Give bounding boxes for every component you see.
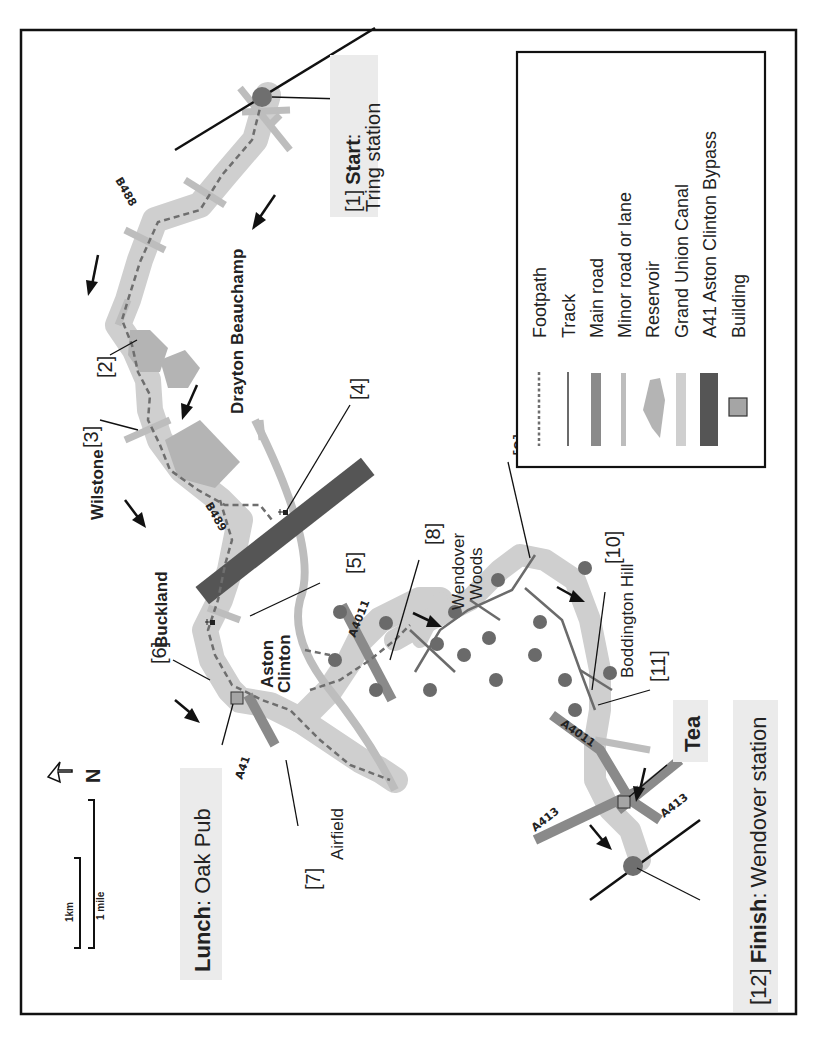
station-wendover	[623, 856, 643, 876]
legend-building-symbol	[729, 398, 747, 416]
start-label: [1]Start:	[342, 134, 364, 212]
scale-label-mile: 1 mile	[95, 891, 106, 920]
waypoint-8: [8]	[422, 523, 444, 545]
waypoint-11: [11]	[647, 650, 669, 682]
legend-canal-symbol	[676, 373, 686, 446]
start-station-name: Tring station	[362, 103, 384, 212]
tea-label: Tea	[680, 715, 705, 752]
legend-bypass-symbol	[700, 373, 718, 446]
waypoint-7: [7]	[302, 868, 324, 890]
place-drayton-beauchamp: Drayton Beauchamp	[228, 249, 247, 414]
legend-label: Main road	[587, 258, 607, 338]
station-tring	[252, 87, 272, 107]
legend-label: Reservoir	[643, 261, 663, 338]
waypoint-2: [2]	[94, 356, 116, 378]
legend-minor-road-symbol	[621, 373, 626, 446]
legend-label: Grand Union Canal	[672, 184, 692, 338]
place-wendover-woods-2: Woods	[467, 547, 486, 600]
building-oak-pub	[231, 692, 243, 704]
waypoint-4: [4]	[347, 378, 369, 400]
legend-label: A41 Aston Clinton Bypass	[700, 131, 720, 338]
building-tea	[618, 796, 630, 808]
legend-label: Footpath	[530, 267, 550, 338]
legend-box: Footpath Track Main road Minor road or l…	[517, 52, 765, 467]
place-wendover-woods-1: Wendover	[449, 532, 468, 610]
scale-label-km: 1km	[64, 902, 75, 922]
waypoint-5: [5]	[343, 552, 365, 574]
waypoint-3: [3]	[80, 426, 102, 448]
legend-label: Minor road or lane	[615, 192, 635, 338]
north-label: N	[82, 769, 104, 783]
finish-label: [12]Finish:Wendover station	[746, 717, 771, 1005]
place-boddington-hill: Boddington Hill	[618, 564, 637, 678]
legend-label: Track	[559, 293, 579, 338]
place-aston-clinton-2: Clinton	[275, 634, 294, 693]
lunch-label: Lunch: Oak Pub	[190, 808, 215, 972]
place-wilstone: Wilstone	[88, 449, 107, 520]
place-airfield: Airfield	[328, 808, 347, 860]
legend-main-road-symbol	[591, 373, 601, 446]
walk-map: [1]Start: Tring station [12]Finish:Wendo…	[0, 0, 815, 1041]
place-buckland: Buckland	[152, 571, 171, 648]
waypoint-10: [10]	[602, 531, 624, 564]
legend-label: Building	[729, 274, 749, 338]
